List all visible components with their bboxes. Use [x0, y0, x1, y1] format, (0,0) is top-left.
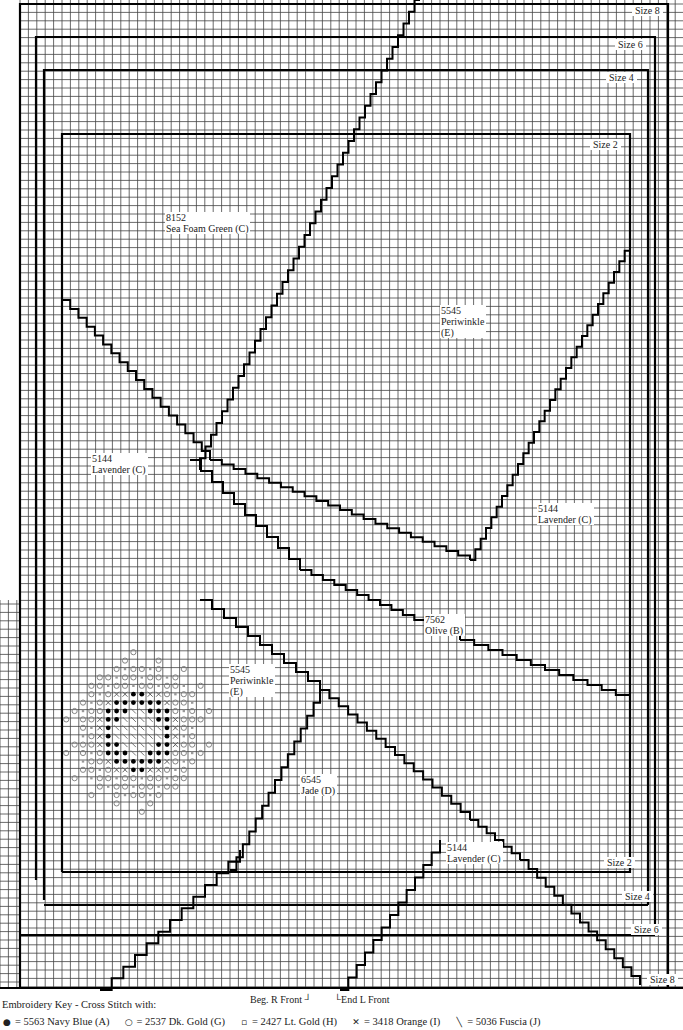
region-code: 8152: [166, 212, 248, 223]
key-item-navy-blue: ● = 5563 Navy Blue (A): [2, 1016, 110, 1027]
region-name: Olive (B): [425, 625, 463, 636]
region-label-lavender-left: 5144 Lavender (C): [91, 453, 148, 475]
key-item-label: = 5563 Navy Blue (A): [15, 1016, 110, 1027]
region-label-periwinkle-bottom: 5545 Periwinkle (E): [229, 664, 275, 697]
small-square-icon: ▫: [239, 1017, 249, 1027]
size-6-label-bottom: Size 6: [631, 924, 662, 935]
beg-r-front-marker: Beg. R Front ┘: [250, 994, 312, 1005]
region-name: Periwinkle: [230, 675, 273, 686]
region-label-jade: 6545 Jade (D): [300, 774, 337, 796]
region-name: Lavender (C): [538, 514, 592, 525]
region-code: 5545: [441, 305, 484, 316]
size-2-label-bottom: Size 2: [604, 857, 635, 868]
region-label-lavender-right: 5144 Lavender (C): [537, 503, 594, 525]
cross-icon: ✕: [351, 1017, 361, 1027]
region-name: Jade (D): [301, 785, 335, 796]
region-code: 5545: [230, 664, 273, 675]
end-l-front-label: End L Front: [341, 994, 390, 1005]
region-code: 5144: [538, 503, 592, 514]
region-code: 7562: [425, 614, 463, 625]
key-item-fuscia: ╲ = 5036 Fuscia (J): [454, 1016, 540, 1027]
region-name: Lavender (C): [92, 464, 146, 475]
size-8-label-top: Size 8: [632, 5, 663, 16]
region-label-sea-foam-green: 8152 Sea Foam Green (C): [165, 212, 250, 234]
key-item-label: = 2427 Lt. Gold (H): [252, 1016, 337, 1027]
region-letter: (E): [441, 327, 484, 338]
size-4-label-bottom: Size 4: [622, 891, 653, 902]
open-circle-icon: ○: [124, 1017, 134, 1027]
embroidery-key-title: Embroidery Key - Cross Stitch with:: [2, 999, 156, 1010]
beg-r-front-label: Beg. R Front: [250, 994, 302, 1005]
size-2-label-top: Size 2: [590, 139, 621, 150]
filled-dot-icon: ●: [2, 1017, 12, 1027]
knitting-chart-grid: [0, 0, 683, 995]
region-name: Lavender (C): [447, 853, 501, 864]
region-code: 5144: [92, 453, 146, 464]
region-name: Periwinkle: [441, 316, 484, 327]
key-item-orange: ✕ = 3418 Orange (I): [351, 1016, 440, 1027]
size-6-label-top: Size 6: [615, 39, 646, 50]
key-item-label: = 3418 Orange (I): [364, 1016, 440, 1027]
region-name: Sea Foam Green (C): [166, 223, 248, 234]
region-code: 5144: [447, 842, 501, 853]
key-item-label: = 5036 Fuscia (J): [467, 1016, 540, 1027]
key-item-lt-gold: ▫ = 2427 Lt. Gold (H): [239, 1016, 337, 1027]
size-4-label-top: Size 4: [606, 72, 637, 83]
backslash-icon: ╲: [454, 1017, 464, 1027]
region-label-lavender-bottom: 5144 Lavender (C): [446, 842, 503, 864]
embroidery-key-legend: ● = 5563 Navy Blue (A) ○ = 2537 Dk. Gold…: [2, 1016, 541, 1027]
key-item-label: = 2537 Dk. Gold (G): [137, 1016, 225, 1027]
region-label-periwinkle-top: 5545 Periwinkle (E): [440, 305, 486, 338]
key-item-dk-gold: ○ = 2537 Dk. Gold (G): [124, 1016, 225, 1027]
region-code: 6545: [301, 774, 335, 785]
end-l-front-marker: └End L Front: [334, 994, 390, 1005]
region-letter: (E): [230, 686, 273, 697]
region-label-olive: 7562 Olive (B): [424, 614, 465, 636]
size-8-label-bottom: Size 8: [647, 974, 678, 985]
